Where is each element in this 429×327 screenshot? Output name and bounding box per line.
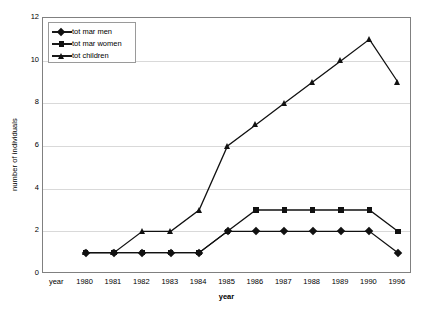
y-tick-label: 8 [17,98,39,106]
data-point [337,57,343,63]
y-tick-label: 12 [17,13,39,21]
x-axis-title: year [42,292,411,301]
legend-item[interactable]: tot mar women [52,38,132,49]
x-tick-label: 1996 [377,277,417,287]
data-point [140,250,146,256]
plot-area: tot mar mentot mar womentot children [42,17,411,273]
legend-item[interactable]: tot mar men [52,26,132,37]
data-point [338,207,344,213]
y-tick-label: 6 [17,141,39,149]
data-point [282,207,288,213]
y-tick-label: 2 [17,226,39,234]
data-point [253,207,259,213]
data-point [196,250,202,256]
legend-item[interactable]: tot children [52,50,132,61]
data-point [196,207,202,213]
legend-marker-triangle-icon [52,50,72,61]
data-point [366,36,372,42]
data-point [167,228,173,234]
data-point [309,79,315,85]
data-point [82,249,88,255]
legend-marker-diamond-icon [52,26,72,37]
data-point [252,121,258,127]
data-point [168,250,174,256]
data-point [281,100,287,106]
data-point [139,228,145,234]
x-axis-tick-labels: year198019811982198319841985198619871988… [42,277,411,291]
series-line-tot-mar-men [86,231,398,252]
y-tick-label: 4 [17,184,39,192]
y-tick-label: 10 [17,56,39,64]
data-point [394,79,400,85]
data-point [225,229,231,235]
data-point [367,207,373,213]
chart-legend: tot mar mentot mar womentot children [48,22,136,63]
data-point [395,229,401,235]
legend-marker-square-icon [52,38,72,49]
legend-label: tot children [72,51,109,60]
data-point [110,249,116,255]
legend-label: tot mar men [72,27,112,36]
line-chart: number of individuals 024681012 tot mar … [0,0,429,327]
legend-label: tot mar women [72,39,122,48]
data-point [310,207,316,213]
y-tick-label: 0 [17,269,39,277]
data-point [224,143,230,149]
